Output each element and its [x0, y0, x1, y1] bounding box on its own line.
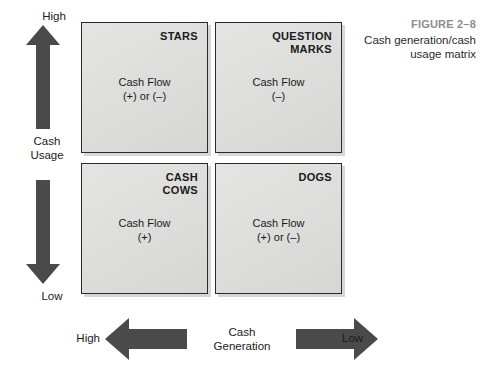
quadrant-cash-cows-body: Cash Flow (+)	[82, 216, 207, 244]
quadrant-dogs: DOGS Cash Flow (+) or (–)	[215, 163, 342, 294]
quadrant-cash-cows-cash-flow-label: Cash Flow	[119, 217, 171, 229]
quadrant-cash-cows-title: CASH COWS	[163, 171, 198, 197]
quadrant-dogs-body: Cash Flow (+) or (–)	[216, 216, 341, 244]
quadrant-stars: STARS Cash Flow (+) or (–)	[81, 22, 208, 153]
horizontal-axis-high-label: High	[58, 332, 100, 344]
quadrant-cash-cows: CASH COWS Cash Flow (+)	[81, 163, 208, 294]
quadrant-stars-cash-flow-value: (+) or (–)	[82, 89, 207, 103]
vertical-axis-high-label: High	[26, 10, 82, 22]
figure-title: Cash generation/cash usage matrix	[352, 33, 476, 62]
quadrant-question-marks-cash-flow-label: Cash Flow	[253, 76, 305, 88]
quadrant-dogs-title: DOGS	[298, 171, 332, 184]
quadrant-stars-title: STARS	[160, 30, 198, 43]
figure-caption: FIGURE 2–8 Cash generation/cash usage ma…	[352, 17, 476, 62]
quadrant-question-marks: QUESTION MARKS Cash Flow (–)	[215, 22, 342, 153]
quadrant-question-marks-body: Cash Flow (–)	[216, 75, 341, 103]
vertical-axis-low-label: Low	[24, 290, 80, 302]
quadrant-stars-cash-flow-label: Cash Flow	[119, 76, 171, 88]
quadrant-dogs-cash-flow-value: (+) or (–)	[216, 230, 341, 244]
quadrant-cash-cows-cash-flow-value: (+)	[82, 230, 207, 244]
vertical-axis-label: Cash Usage	[16, 134, 78, 162]
quadrant-question-marks-title: QUESTION MARKS	[272, 30, 332, 56]
quadrant-question-marks-cash-flow-value: (–)	[216, 89, 341, 103]
cash-matrix: STARS Cash Flow (+) or (–) QUESTION MARK…	[81, 22, 342, 294]
figure-container: FIGURE 2–8 Cash generation/cash usage ma…	[0, 0, 484, 383]
cash-generation-left-arrow-icon	[105, 318, 187, 360]
quadrant-stars-body: Cash Flow (+) or (–)	[82, 75, 207, 103]
horizontal-axis-label: Cash Generation	[186, 325, 298, 353]
figure-number: FIGURE 2–8	[352, 17, 476, 32]
cash-usage-up-arrow-icon	[26, 25, 60, 129]
quadrant-dogs-cash-flow-label: Cash Flow	[253, 217, 305, 229]
horizontal-axis-low-label: Low	[342, 332, 384, 344]
cash-usage-down-arrow-icon	[26, 180, 60, 284]
